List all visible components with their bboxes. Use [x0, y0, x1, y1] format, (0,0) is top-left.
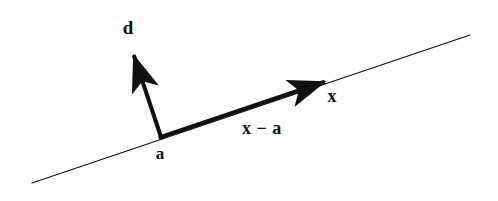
base-point-label-a: a — [156, 145, 165, 162]
infinite-line — [32, 35, 470, 183]
diagram-canvas — [0, 0, 498, 201]
base-point-a-dot — [158, 134, 163, 139]
difference-vector-label-x-minus-a: x − a — [242, 119, 282, 137]
point-label-x: x — [328, 87, 337, 105]
vector-line-diagram: d a x x − a — [0, 0, 498, 201]
direction-vector-label-d: d — [123, 18, 134, 37]
direction-vector-d-shaft — [134, 55, 161, 137]
